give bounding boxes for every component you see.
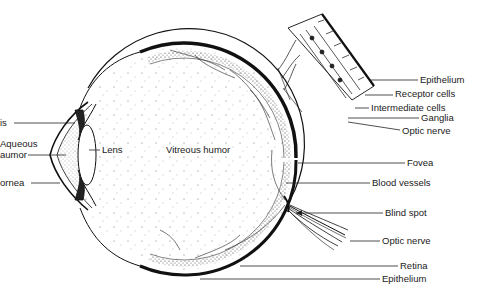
label-cornea: ornea	[0, 177, 24, 188]
label-blind-spot: Blind spot	[385, 207, 427, 218]
label-aqueous-humor-line1: Aqueous	[0, 138, 38, 149]
label-retina: Retina	[400, 260, 427, 271]
label-vitreous-humor: Vitreous humor	[166, 144, 230, 155]
label-receptor-cells: Receptor cells	[395, 88, 455, 99]
eye-diagram	[0, 0, 478, 301]
optic-nerve-bundle	[284, 196, 348, 250]
label-inset-epithelium: Epithelium	[420, 74, 464, 85]
label-blood-vessels: Blood vessels	[372, 177, 431, 188]
label-optic-nerve: Optic nerve	[382, 235, 431, 246]
label-ganglia: Ganglia	[421, 112, 454, 123]
label-fovea: Fovea	[407, 157, 433, 168]
label-lens: Lens	[102, 144, 123, 155]
retina-inset	[278, 14, 374, 112]
label-iris: is	[0, 117, 7, 128]
label-epithelium: Epithelium	[382, 273, 426, 284]
label-aqueous-humor-line2: aumor	[0, 149, 27, 160]
label-inset-optic-nerve: Optic nerve	[402, 125, 451, 136]
